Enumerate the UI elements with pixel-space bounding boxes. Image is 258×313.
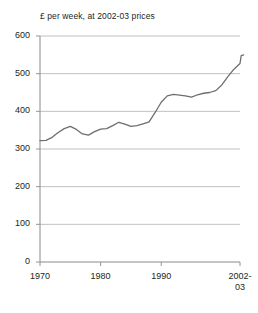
chart-plot-area (0, 0, 258, 313)
y-axis-tick-label: 200 (4, 182, 30, 191)
x-axis-tick-label: 2002- 03 (218, 271, 258, 293)
x-axis-tick-label: 1990 (139, 271, 183, 282)
data-series-line (40, 55, 244, 141)
y-axis-ticks (36, 36, 40, 262)
x-axis-ticks (40, 262, 240, 266)
y-axis-tick-label: 300 (4, 144, 30, 153)
x-axis-tick-label: 1980 (79, 271, 123, 282)
y-axis-tick-label: 600 (4, 31, 30, 40)
y-axis-tick-label: 0 (4, 257, 30, 266)
y-axis-tick-label: 400 (4, 106, 30, 115)
y-axis-tick-label: 500 (4, 69, 30, 78)
y-axis-tick-label: 100 (4, 219, 30, 228)
gridlines (40, 36, 240, 224)
x-axis-tick-label: 1970 (18, 271, 62, 282)
chart-container: £ per week, at 2002-03 prices 0100200300… (0, 0, 258, 313)
